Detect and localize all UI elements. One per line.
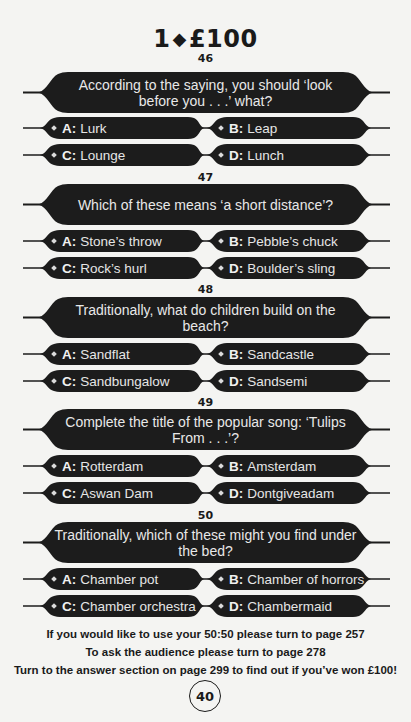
option-letter: D: xyxy=(229,261,243,276)
answer-row: A:Lurk B:Leap xyxy=(0,117,411,139)
answer-option-c[interactable]: C:Rock’s hurl xyxy=(52,257,147,279)
bullet-icon xyxy=(218,265,224,271)
question-text: Traditionally, which of these might you … xyxy=(50,522,361,563)
page-number: 40 xyxy=(189,680,221,712)
option-text: Rock’s hurl xyxy=(80,261,147,276)
bullet-icon xyxy=(218,463,224,469)
bullet-icon xyxy=(51,378,57,384)
option-letter: D: xyxy=(229,148,243,163)
question-text: Traditionally, what do children build on… xyxy=(60,297,351,338)
question-text: According to the saying, you should ‘loo… xyxy=(60,72,351,113)
answer-option-b[interactable]: B:Sandcastle xyxy=(219,343,314,365)
answer-option-a[interactable]: A:Chamber pot xyxy=(52,568,158,590)
option-letter: B: xyxy=(229,234,243,249)
question-number: 48 xyxy=(0,283,411,296)
answer-row: A:Stone’s throw B:Pebble’s chuck xyxy=(0,230,411,252)
option-text: Leap xyxy=(247,121,277,136)
answer-row: C:Sandbungalow D:Sandsemi xyxy=(0,370,411,392)
option-text: Sandcastle xyxy=(247,347,314,362)
option-text: Chamber pot xyxy=(80,572,158,587)
option-letter: B: xyxy=(229,459,243,474)
answer-row: A:Chamber pot B:Chamber of horrors xyxy=(0,568,411,590)
bullet-icon xyxy=(218,603,224,609)
lifeline-audience-instruction: To ask the audience please turn to page … xyxy=(0,646,411,658)
answer-option-c[interactable]: C:Aswan Dam xyxy=(52,482,153,504)
option-text: Lounge xyxy=(80,148,125,163)
option-letter: B: xyxy=(229,121,243,136)
answer-row: A:Sandflat B:Sandcastle xyxy=(0,343,411,365)
bullet-icon xyxy=(51,152,57,158)
option-text: Sandflat xyxy=(80,347,130,362)
question-banner: Traditionally, which of these might you … xyxy=(0,522,411,563)
option-text: Sandsemi xyxy=(247,374,307,389)
option-text: Amsterdam xyxy=(247,459,316,474)
answer-option-b[interactable]: B:Chamber of horrors xyxy=(219,568,364,590)
bullet-icon xyxy=(51,603,57,609)
answer-option-c[interactable]: C:Sandbungalow xyxy=(52,370,170,392)
answer-option-a[interactable]: A:Stone’s throw xyxy=(52,230,162,252)
option-text: Chamber orchestra xyxy=(80,599,196,614)
level-number: 1 xyxy=(153,25,170,53)
option-text: Boulder’s sling xyxy=(247,261,335,276)
answer-option-d[interactable]: D:Dontgiveadam xyxy=(219,482,334,504)
option-letter: D: xyxy=(229,599,243,614)
bullet-icon xyxy=(218,490,224,496)
answer-option-a[interactable]: A:Sandflat xyxy=(52,343,130,365)
option-text: Pebble’s chuck xyxy=(247,234,338,249)
bullet-icon xyxy=(51,576,57,582)
question-banner: Which of these means ‘a short distance’? xyxy=(0,184,411,225)
bullet-icon xyxy=(51,351,57,357)
question-number: 46 xyxy=(0,52,411,65)
answer-option-c[interactable]: C:Chamber orchestra xyxy=(52,595,196,617)
answer-option-b[interactable]: B:Leap xyxy=(219,117,277,139)
question-banner: Traditionally, what do children build on… xyxy=(0,297,411,338)
answer-option-d[interactable]: D:Boulder’s sling xyxy=(219,257,335,279)
option-letter: C: xyxy=(62,148,76,163)
option-text: Dontgiveadam xyxy=(247,486,334,501)
answer-row: C:Lounge D:Lunch xyxy=(0,144,411,166)
answer-option-d[interactable]: D:Lunch xyxy=(219,144,284,166)
option-letter: A: xyxy=(62,459,76,474)
option-letter: C: xyxy=(62,486,76,501)
option-text: Aswan Dam xyxy=(80,486,153,501)
bullet-icon xyxy=(218,152,224,158)
option-letter: B: xyxy=(229,572,243,587)
option-letter: A: xyxy=(62,347,76,362)
answer-row: C:Rock’s hurl D:Boulder’s sling xyxy=(0,257,411,279)
question-banner: According to the saying, you should ‘loo… xyxy=(0,72,411,113)
bullet-icon xyxy=(51,265,57,271)
bullet-icon xyxy=(218,576,224,582)
answer-option-a[interactable]: A:Rotterdam xyxy=(52,455,143,477)
bullet-icon xyxy=(218,125,224,131)
bullet-icon xyxy=(51,490,57,496)
question-banner: Complete the title of the popular song: … xyxy=(0,409,411,450)
answer-section-instruction: Turn to the answer section on page 299 t… xyxy=(0,664,411,676)
option-text: Chamber of horrors xyxy=(247,572,364,587)
answer-option-c[interactable]: C:Lounge xyxy=(52,144,125,166)
option-text: Lunch xyxy=(247,148,284,163)
option-letter: D: xyxy=(229,374,243,389)
lifeline-5050-instruction: If you would like to use your 50:50 plea… xyxy=(0,628,411,640)
answer-option-d[interactable]: D:Chambermaid xyxy=(219,595,332,617)
prize-amount: £100 xyxy=(189,25,258,53)
bullet-icon xyxy=(218,351,224,357)
answer-option-b[interactable]: B:Pebble’s chuck xyxy=(219,230,338,252)
answer-option-a[interactable]: A:Lurk xyxy=(52,117,107,139)
bullet-icon xyxy=(218,378,224,384)
answer-option-b[interactable]: B:Amsterdam xyxy=(219,455,316,477)
question-number: 50 xyxy=(0,509,411,522)
bullet-icon xyxy=(51,125,57,131)
option-text: Stone’s throw xyxy=(80,234,162,249)
bullet-icon xyxy=(51,463,57,469)
option-letter: C: xyxy=(62,374,76,389)
question-text: Which of these means ‘a short distance’? xyxy=(60,184,351,225)
answer-row: A:Rotterdam B:Amsterdam xyxy=(0,455,411,477)
option-letter: B: xyxy=(229,347,243,362)
diamond-icon: ◆ xyxy=(173,28,187,49)
option-letter: A: xyxy=(62,234,76,249)
option-letter: C: xyxy=(62,261,76,276)
answer-option-d[interactable]: D:Sandsemi xyxy=(219,370,307,392)
question-number: 49 xyxy=(0,396,411,409)
option-letter: D: xyxy=(229,486,243,501)
option-letter: A: xyxy=(62,572,76,587)
